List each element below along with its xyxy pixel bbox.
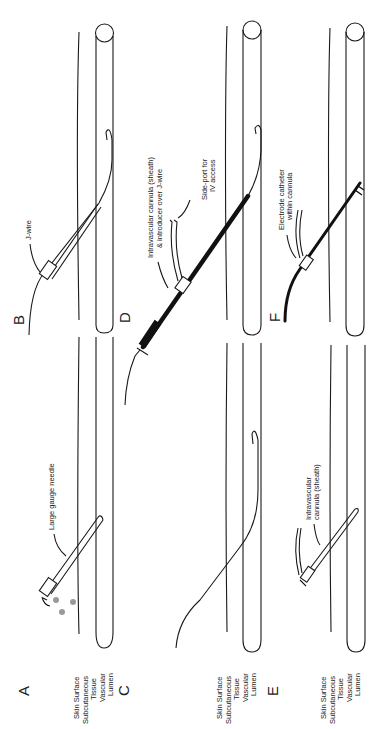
panel-label-f: F	[266, 313, 283, 322]
needle-over-wire	[39, 204, 101, 279]
side-port-tube	[170, 220, 182, 281]
side-port-tube	[296, 210, 303, 258]
panel-d: Intravascular cannula (sheath) & introdu…	[116, 21, 261, 405]
label-lumen: Lumen	[249, 673, 258, 696]
panel-label-a: A	[15, 686, 32, 696]
vessel-tube	[96, 36, 113, 333]
j-wire	[248, 125, 261, 196]
introducer-hub	[142, 322, 158, 346]
j-wire-tail	[125, 350, 140, 405]
skin-line	[329, 28, 331, 322]
annotation-introducer: & introducer over J-wire	[155, 169, 164, 248]
vessel-tube	[243, 30, 261, 335]
vessel-end	[243, 21, 261, 39]
label-tissue: Tissue	[336, 678, 345, 700]
leader-line	[158, 262, 168, 288]
vessel-end	[346, 23, 364, 41]
label-lumen: Lumen	[106, 673, 115, 696]
vessel-end	[96, 24, 114, 42]
skin-line	[78, 32, 80, 320]
panel-label-b: B	[10, 315, 27, 325]
panel-label-e: E	[264, 686, 281, 696]
skin-line	[78, 337, 79, 634]
skin-line	[226, 26, 228, 320]
annotation-within-cannula: within cannula	[285, 172, 294, 221]
j-wire	[176, 431, 258, 648]
vessel-tube	[347, 345, 365, 652]
leader-line	[314, 524, 320, 545]
label-tissue: Tissue	[89, 678, 98, 700]
annotation-large-gauge-needle: Large gauge needle	[47, 463, 56, 530]
vessel-tube	[96, 337, 113, 648]
blood-drop-icon	[59, 609, 65, 615]
panel-a: Large gauge needle Skin Surface Subcutan…	[15, 337, 115, 724]
rotation-arrow-icon	[296, 528, 302, 575]
skin-line	[330, 345, 331, 632]
panel-f: Electrode catheter within cannula F	[266, 23, 364, 336]
panel-c: Skin Surface Subcutaneous Tissue Vascula…	[115, 343, 261, 724]
vessel-tube	[346, 32, 364, 336]
panel-label-d: D	[116, 312, 133, 323]
annotation-j-wire: J-wire	[24, 220, 33, 240]
label-skin-surface: Skin Surface	[72, 676, 81, 719]
leader-line	[178, 200, 190, 218]
panel-b: J-wire B	[10, 24, 114, 335]
j-wire	[29, 130, 112, 335]
label-lumen: Lumen	[353, 673, 362, 696]
annotation-cannula-sheath: cannula (sheath)	[312, 464, 321, 520]
electrode-catheter	[285, 183, 360, 321]
panel-label-c: C	[115, 685, 132, 696]
label-skin-surface: Skin Surface	[319, 676, 328, 719]
blood-drop-icon	[53, 597, 59, 603]
label-skin-surface: Skin Surface	[215, 676, 224, 719]
annotation-iv-access: IV access	[208, 159, 217, 192]
leader-line	[30, 244, 40, 272]
seldinger-technique-diagram: Large gauge needle Skin Surface Subcutan…	[0, 0, 375, 729]
leader-line	[54, 534, 66, 556]
annotation-cannula-sheath: Intravascular cannula (sheath)	[146, 157, 155, 258]
skin-line	[226, 343, 227, 632]
panel-e: Intravascular cannula (sheath) Skin Surf…	[264, 345, 365, 724]
blood-drop-icon	[70, 599, 76, 605]
label-tissue: Tissue	[232, 678, 241, 700]
leader-line	[287, 235, 296, 258]
